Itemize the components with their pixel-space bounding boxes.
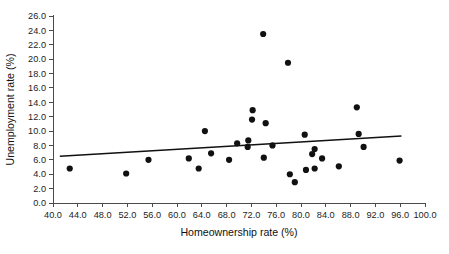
- data-point: [303, 167, 309, 173]
- data-point: [356, 131, 362, 137]
- x-tick-label: 52.0: [118, 210, 136, 220]
- x-tick-label: 84.0: [317, 210, 335, 220]
- data-point: [245, 137, 251, 143]
- data-point: [249, 116, 255, 122]
- data-point: [261, 155, 267, 161]
- data-point: [312, 146, 318, 152]
- x-tick-label: 76.0: [267, 210, 285, 220]
- data-point: [260, 31, 266, 37]
- data-point: [202, 128, 208, 134]
- data-point: [312, 165, 318, 171]
- x-tick-label: 68.0: [218, 210, 236, 220]
- x-tick-label: 92.0: [366, 210, 384, 220]
- data-point: [336, 163, 342, 169]
- data-point: [292, 179, 298, 185]
- x-axis-title: Homeownership rate (%): [180, 226, 297, 238]
- x-tick-label: 88.0: [342, 210, 360, 220]
- y-tick-label: 16.0: [28, 83, 46, 93]
- data-point: [250, 107, 256, 113]
- plot-canvas: 0.02.04.06.08.010.012.014.016.018.020.02…: [0, 0, 449, 254]
- y-tick-label: 14.0: [28, 98, 46, 108]
- x-tick-label: 44.0: [69, 210, 87, 220]
- y-tick-label: 12.0: [28, 112, 46, 122]
- y-tick-label: 24.0: [28, 26, 46, 36]
- y-axis-tick-labels: 0.02.04.06.08.010.012.014.016.018.020.02…: [28, 11, 46, 208]
- data-point: [302, 132, 308, 138]
- data-point: [196, 165, 202, 171]
- data-point: [67, 165, 73, 171]
- y-tick-label: 26.0: [28, 11, 46, 21]
- data-point: [186, 155, 192, 161]
- data-point: [245, 144, 251, 150]
- y-tick-label: 18.0: [28, 69, 46, 79]
- x-tick-label: 96.0: [391, 210, 409, 220]
- data-point: [234, 140, 240, 146]
- data-point: [287, 171, 293, 177]
- x-tick-label: 80.0: [292, 210, 310, 220]
- data-point: [354, 104, 360, 110]
- y-tick-label: 22.0: [28, 40, 46, 50]
- data-point: [269, 142, 275, 148]
- data-point: [145, 157, 151, 163]
- y-tick-label: 10.0: [28, 126, 46, 136]
- x-axis-tick-labels: 40.044.048.052.056.060.064.068.072.076.0…: [44, 210, 436, 220]
- scatter-chart: 0.02.04.06.08.010.012.014.016.018.020.02…: [0, 0, 449, 254]
- data-point: [226, 157, 232, 163]
- x-tick-label: 48.0: [94, 210, 112, 220]
- y-tick-label: 8.0: [33, 141, 46, 151]
- x-tick-label: 40.0: [44, 210, 62, 220]
- y-axis-title: Unemployment rate (%): [4, 54, 16, 166]
- x-tick-label: 56.0: [143, 210, 161, 220]
- y-tick-label: 6.0: [33, 155, 46, 165]
- data-point: [208, 150, 214, 156]
- data-point: [263, 120, 269, 126]
- data-point: [285, 60, 291, 66]
- y-axis-tick-marks: [49, 16, 53, 203]
- data-point: [319, 155, 325, 161]
- x-tick-label: 60.0: [168, 210, 186, 220]
- y-tick-label: 20.0: [28, 54, 46, 64]
- x-tick-label: 72.0: [242, 210, 260, 220]
- x-axis-tick-marks: [53, 203, 425, 207]
- data-point: [123, 170, 129, 176]
- y-tick-label: 0.0: [33, 198, 46, 208]
- y-tick-label: 2.0: [33, 184, 46, 194]
- data-points-group: [67, 31, 403, 185]
- data-point: [396, 157, 402, 163]
- x-tick-label: 100.0: [414, 210, 437, 220]
- trend-line: [60, 136, 402, 156]
- x-tick-label: 64.0: [193, 210, 211, 220]
- y-tick-label: 4.0: [33, 169, 46, 179]
- data-point: [361, 144, 367, 150]
